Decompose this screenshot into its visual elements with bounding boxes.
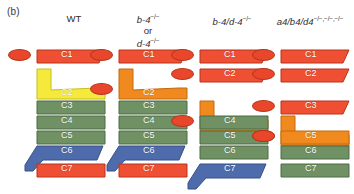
genotype-or: or [105,26,191,37]
segment-shape-c7 [35,162,107,179]
affected-segment-marker [252,68,275,80]
affected-segment-marker [171,68,194,80]
affected-segment-marker [171,49,194,61]
segment-shape-c6 [198,144,270,161]
segment-shape-c6 [279,144,351,161]
column-header-b4-or-d4: b-4−/− or d-4−/− [105,12,191,50]
column-header-wt-text: WT [67,13,82,24]
genotype-b4-d4: b-4/d-4 [213,16,243,27]
panel-label: (b) [7,6,20,17]
segment-shape-c2 [279,67,351,84]
segment-shape-c7 [117,162,189,179]
genotype-b4: b-4 [137,14,151,25]
segment-shape-c7 [186,162,268,191]
segment-shape-c7 [279,162,351,179]
affected-segment-marker [90,83,113,95]
figure-panel-b: (b) WT b-4−/− or d-4−/− b-4/d-4−/− a4/b4… [0,0,354,194]
segment-shape-c1 [279,48,351,65]
affected-segment-marker [252,130,275,142]
affected-segment-marker [171,115,194,127]
column-header-b4-d4: b-4/d-4−/− [186,14,278,28]
genotype-a4-b4-d4: a4/b4/d4 [277,16,314,27]
affected-segment-marker [252,100,275,112]
affected-segment-marker [90,49,113,61]
affected-segment-marker [252,49,275,61]
column-header-a4-b4-d4: a4/b4/d4−/−,−/−,−/− [266,14,354,28]
affected-segment-marker [8,49,31,61]
